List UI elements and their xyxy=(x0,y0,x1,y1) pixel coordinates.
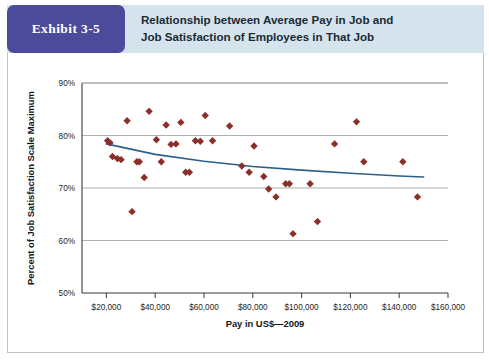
x-axis-title: Pay in US$—2009 xyxy=(226,318,305,329)
data-point xyxy=(290,231,296,237)
data-point xyxy=(239,163,245,169)
data-point xyxy=(227,123,233,129)
x-tick-label-$120,000: $120,000 xyxy=(333,303,368,312)
x-tick-label-$140,000: $140,000 xyxy=(382,303,417,312)
data-point xyxy=(158,159,164,165)
x-tick-label-$60,000: $60,000 xyxy=(189,303,219,312)
data-point xyxy=(246,169,252,175)
exhibit-title: Relationship between Average Pay in Job … xyxy=(125,5,484,53)
data-point xyxy=(124,118,130,124)
data-point xyxy=(173,141,179,147)
data-point xyxy=(251,143,257,149)
y-axis-title: Percent of Job Satisfaction Scale Maximu… xyxy=(25,91,36,285)
data-point xyxy=(415,194,421,200)
data-point xyxy=(307,181,313,187)
chart-canvas: 50%60%70%80%90%$20,000$40,000$60,000$80,… xyxy=(8,53,485,353)
x-tick-label-$80,000: $80,000 xyxy=(238,303,268,312)
data-point xyxy=(315,219,321,225)
y-tick-label-50%: 50% xyxy=(59,289,75,298)
x-tick-label-$160,000: $160,000 xyxy=(431,303,466,312)
y-tick-label-70%: 70% xyxy=(59,184,75,193)
data-point xyxy=(273,194,279,200)
exhibit-title-line-2: Job Satisfaction of Employees in That Jo… xyxy=(141,29,484,46)
data-point xyxy=(154,137,160,143)
x-tick-label-$40,000: $40,000 xyxy=(140,303,170,312)
data-point xyxy=(141,175,147,181)
y-tick-label-60%: 60% xyxy=(59,237,75,246)
y-tick-label-90%: 90% xyxy=(59,79,75,88)
scatter-chart: 50%60%70%80%90%$20,000$40,000$60,000$80,… xyxy=(8,53,485,353)
data-point xyxy=(197,138,203,144)
chart-frame: 50%60%70%80%90%$20,000$40,000$60,000$80,… xyxy=(7,53,484,353)
data-point xyxy=(202,113,208,119)
data-point xyxy=(266,186,272,192)
x-tick-label-$100,000: $100,000 xyxy=(285,303,320,312)
data-point xyxy=(178,119,184,125)
data-point xyxy=(354,119,360,125)
y-tick-label-80%: 80% xyxy=(59,132,75,141)
exhibit-badge: Exhibit 3-5 xyxy=(7,5,125,53)
x-tick-label-$20,000: $20,000 xyxy=(92,303,122,312)
data-point xyxy=(129,209,135,215)
data-point xyxy=(332,141,338,147)
trend-line xyxy=(106,144,423,177)
data-point xyxy=(163,122,169,128)
exhibit-badge-label: Exhibit 3-5 xyxy=(32,21,101,37)
exhibit-title-line-1: Relationship between Average Pay in Job … xyxy=(141,12,484,29)
data-point xyxy=(210,138,216,144)
data-point xyxy=(400,159,406,165)
exhibit-figure: Exhibit 3-5 Relationship between Average… xyxy=(0,0,489,360)
data-point xyxy=(261,174,267,180)
exhibit-header: Exhibit 3-5 Relationship between Average… xyxy=(7,5,484,53)
data-point xyxy=(146,108,152,114)
data-point xyxy=(361,159,367,165)
